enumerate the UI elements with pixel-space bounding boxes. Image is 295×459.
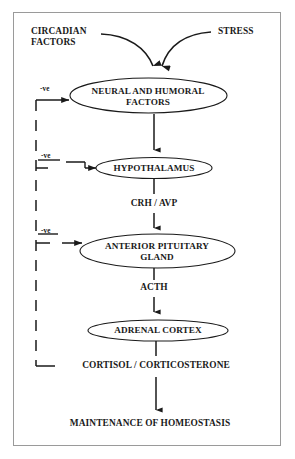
input-arrow-stress [162, 32, 211, 66]
node-label-anterior-pituitary: ANTERIOR PITUITARY GLAND [105, 241, 209, 263]
mediator-label-cortisol: CORTISOL / CORTICOSTERONE [82, 360, 230, 371]
feedback-label-neg-neural: -ve [40, 85, 49, 93]
diagram-page: CIRCADIAN FACTORS STRESS NEURAL AND HUMO… [0, 0, 295, 459]
node-label-anterior-pituitary-line1: ANTERIOR PITUITARY [105, 241, 209, 251]
mediator-label-crh-avp: CRH / AVP [131, 198, 178, 209]
node-label-hypothalamus: HYPOTHALAMUS [114, 163, 195, 174]
outcome-label-homeostasis: MAINTENANCE OF HOMEOSTASIS [70, 418, 230, 429]
feedback-label-neg-pituitary: -ve [41, 227, 50, 235]
feedback-arrow-to-hypothalamus [36, 160, 96, 168]
input-arrow-circadian [101, 34, 153, 66]
input-label-circadian-line1: CIRCADIAN [31, 26, 87, 36]
node-label-neural-humoral: NEURAL AND HUMORAL FACTORS [91, 86, 204, 108]
node-label-adrenal-cortex: ADRENAL CORTEX [114, 325, 202, 336]
node-label-neural-humoral-line1: NEURAL AND HUMORAL [91, 86, 204, 96]
feedback-label-neg-hypothalamus: -ve [41, 152, 50, 160]
node-label-neural-humoral-line2: FACTORS [126, 97, 170, 107]
mediator-label-acth: ACTH [140, 282, 168, 293]
input-label-circadian-line2: FACTORS [31, 37, 76, 47]
node-label-anterior-pituitary-line2: GLAND [140, 252, 174, 262]
input-label-stress: STRESS [218, 26, 254, 37]
input-label-circadian: CIRCADIAN FACTORS [31, 26, 87, 48]
